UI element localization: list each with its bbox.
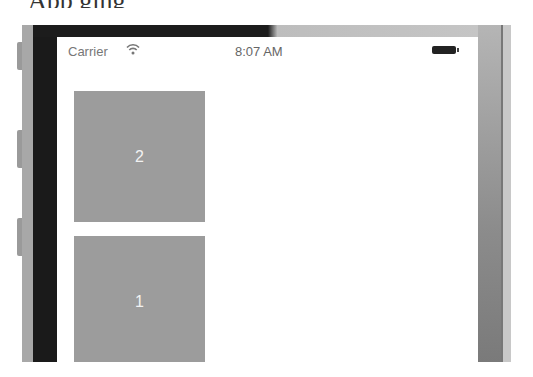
view-label: 1 <box>135 293 144 311</box>
device-bezel-right <box>478 25 503 362</box>
view-box-1[interactable]: 1 <box>74 236 205 362</box>
battery-icon <box>432 46 456 54</box>
cropped-book-text: App ging <box>28 0 508 8</box>
carrier-label: Carrier <box>68 44 108 59</box>
view-label: 2 <box>135 148 144 166</box>
wifi-icon <box>126 43 140 55</box>
device-screen: Carrier 8:07 AM 2 1 <box>59 37 478 362</box>
device-frame-right <box>503 25 511 362</box>
battery-tip-icon <box>457 48 459 52</box>
status-bar: Carrier 8:07 AM <box>59 37 478 57</box>
view-box-2[interactable]: 2 <box>74 91 205 222</box>
device-bezel-top <box>33 25 503 37</box>
device-frame-left <box>22 25 33 362</box>
status-time: 8:07 AM <box>235 44 283 59</box>
device-bezel-left <box>33 25 57 362</box>
